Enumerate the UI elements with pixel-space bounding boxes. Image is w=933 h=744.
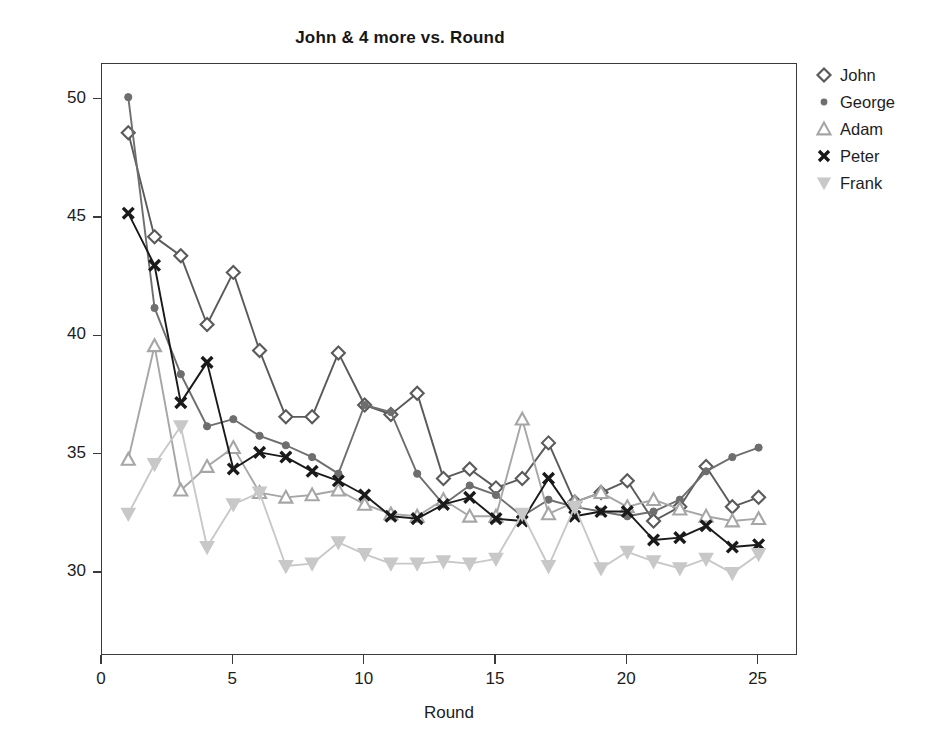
legend-item-george[interactable]: George <box>812 89 927 115</box>
circle-icon <box>812 91 836 113</box>
x-tick-mark <box>757 655 759 664</box>
x-tick-label: 20 <box>606 669 646 689</box>
chart-legend: JohnGeorgeAdamPeterFrank <box>812 62 927 197</box>
triangle-down-icon <box>812 172 836 194</box>
legend-item-adam[interactable]: Adam <box>812 116 927 142</box>
x-icon <box>812 145 836 167</box>
legend-item-john[interactable]: John <box>812 62 927 88</box>
legend-label: George <box>836 93 895 112</box>
x-tick-label: 15 <box>475 669 515 689</box>
legend-label: John <box>836 66 876 85</box>
diamond-icon <box>812 64 836 86</box>
x-tick-mark <box>626 655 628 664</box>
legend-item-frank[interactable]: Frank <box>812 170 927 196</box>
triangle-up-icon <box>812 118 836 140</box>
x-tick-mark <box>494 655 496 664</box>
x-tick-mark <box>100 655 102 664</box>
legend-label: Frank <box>836 174 882 193</box>
x-tick-label: 5 <box>212 669 252 689</box>
x-axis-ticks: 0510152025 <box>0 0 933 744</box>
legend-label: Peter <box>836 147 879 166</box>
x-tick-mark <box>232 655 234 664</box>
x-axis-label: Round <box>101 703 797 723</box>
chart-figure: John & 4 more vs. Round 5045403530 05101… <box>0 0 933 744</box>
legend-item-peter[interactable]: Peter <box>812 143 927 169</box>
x-tick-label: 25 <box>738 669 778 689</box>
x-tick-label: 10 <box>344 669 384 689</box>
x-tick-label: 0 <box>81 669 121 689</box>
x-tick-mark <box>363 655 365 664</box>
legend-label: Adam <box>836 120 883 139</box>
